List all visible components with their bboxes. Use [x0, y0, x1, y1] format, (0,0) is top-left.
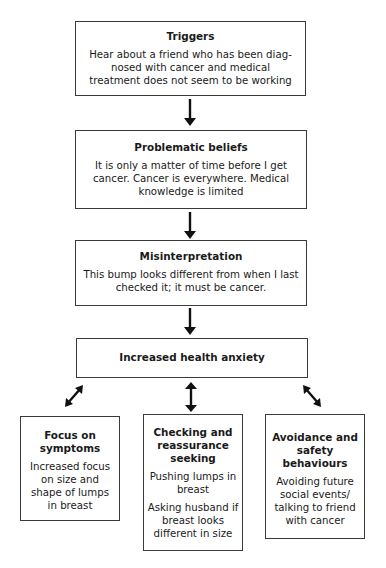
- node-title: Problematic beliefs: [84, 141, 298, 154]
- arrow-down-icon: [182, 308, 198, 336]
- node-triggers: Triggers Hear about a friend who has bee…: [75, 21, 306, 96]
- node-misinterpretation: Misinterpretation This bump looks differ…: [75, 240, 307, 306]
- arrow-down-icon: [182, 212, 198, 240]
- node-title: Triggers: [86, 30, 295, 43]
- arrow-down-icon: [182, 99, 198, 127]
- node-text: Asking husband if breast looks different…: [147, 501, 239, 540]
- node-title: Checking and reassurance seeking: [147, 426, 239, 465]
- node-text: Avoiding future social events/ talking t…: [269, 475, 361, 527]
- node-title: Avoidance and safety behaviours: [269, 431, 361, 470]
- node-text: This bump looks different from when I la…: [82, 268, 300, 294]
- node-text: Increased focus on size and shape of lum…: [25, 460, 115, 512]
- node-avoidance-safety: Avoidance and safety behaviours Avoiding…: [265, 414, 365, 539]
- node-problematic-beliefs: Problematic beliefs It is only a matter …: [75, 130, 307, 209]
- node-text: Pushing lumps in breast: [147, 470, 239, 496]
- double-arrow-middle-icon: [184, 381, 198, 413]
- node-increased-health-anxiety: Increased health anxiety: [76, 338, 308, 378]
- double-arrow-left-icon: [62, 383, 86, 409]
- double-arrow-right-icon: [300, 383, 324, 409]
- node-checking-reassurance: Checking and reassurance seeking Pushing…: [143, 414, 243, 551]
- node-text: Hear about a friend who has been diag-no…: [86, 48, 295, 87]
- node-title: Focus on symptoms: [25, 429, 115, 455]
- node-title: Increased health anxiety: [83, 351, 301, 364]
- node-title: Misinterpretation: [82, 250, 300, 263]
- node-focus-on-symptoms: Focus on symptoms Increased focus on siz…: [20, 416, 120, 521]
- node-text: It is only a matter of time before I get…: [84, 159, 298, 198]
